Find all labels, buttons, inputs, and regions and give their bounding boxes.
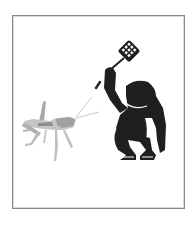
motion-line [96, 82, 100, 88]
illustration [0, 0, 193, 225]
grasshopper-icon [22, 97, 99, 161]
person-silhouette-icon [104, 67, 166, 160]
flyswatter-icon [110, 40, 140, 70]
